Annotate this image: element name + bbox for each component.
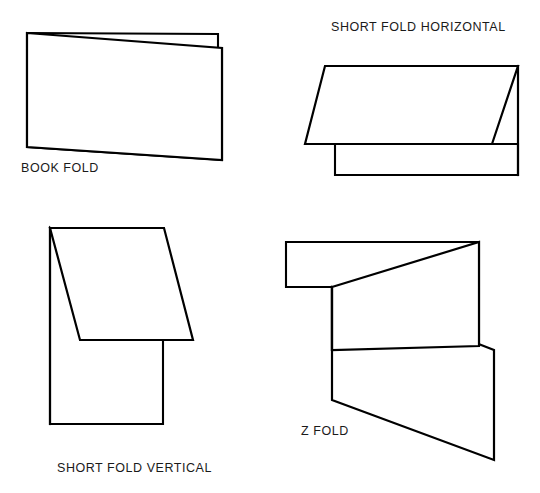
- short-fold-vertical-illustration: [50, 228, 193, 424]
- fold-types-diagram: BOOK FOLD SHORT FOLD HORIZONTAL SHORT FO…: [0, 0, 540, 493]
- book-fold-illustration: [27, 33, 222, 160]
- book-fold-label: BOOK FOLD: [21, 162, 99, 175]
- short-fold-horizontal-illustration: [305, 66, 518, 175]
- short-fold-horizontal-label: SHORT FOLD HORIZONTAL: [331, 21, 506, 34]
- short-fold-vertical-label: SHORT FOLD VERTICAL: [57, 462, 212, 475]
- z-fold-label: Z FOLD: [301, 425, 349, 438]
- fold-illustrations-canvas: [0, 0, 540, 493]
- short-fold-horizontal-back-panel: [335, 144, 518, 175]
- book-fold-front-panel: [27, 33, 222, 160]
- short-fold-horizontal-front-panel: [305, 66, 518, 144]
